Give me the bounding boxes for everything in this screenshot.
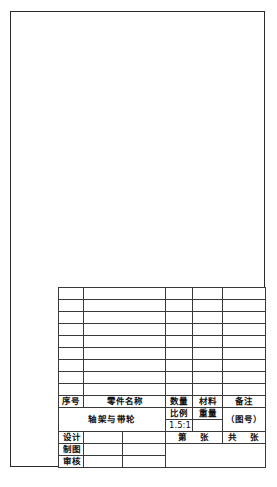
bom-cell-remarks[interactable] xyxy=(223,360,266,372)
title-block-body: 序号 零件名称 数量 材料 备注 轴架与带轮 比例 重量 （图号） 1.5:1 … xyxy=(59,288,266,468)
bom-row[interactable] xyxy=(59,336,266,348)
bom-cell-qty[interactable] xyxy=(166,360,193,372)
title-block-table: 序号 零件名称 数量 材料 备注 轴架与带轮 比例 重量 （图号） 1.5:1 … xyxy=(58,287,266,468)
bom-cell-seq[interactable] xyxy=(59,348,84,360)
bom-row[interactable] xyxy=(59,372,266,384)
bom-cell-seq[interactable] xyxy=(59,300,84,312)
header-seq-no: 序号 xyxy=(59,396,84,408)
header-material: 材料 xyxy=(193,396,223,408)
header-part-name: 零件名称 xyxy=(84,396,166,408)
bom-cell-remarks[interactable] xyxy=(223,288,266,300)
bom-cell-material[interactable] xyxy=(193,360,223,372)
bom-cell-seq[interactable] xyxy=(59,384,84,396)
drawing-sheet-frame: 序号 零件名称 数量 材料 备注 轴架与带轮 比例 重量 （图号） 1.5:1 … xyxy=(10,11,265,467)
bom-cell-name[interactable] xyxy=(84,348,166,360)
draft-date-field[interactable] xyxy=(123,444,166,456)
draft-row: 制图 xyxy=(59,444,266,456)
header-quantity: 数量 xyxy=(166,396,193,408)
bom-cell-material[interactable] xyxy=(193,372,223,384)
bom-cell-qty[interactable] xyxy=(166,288,193,300)
scale-label: 比例 xyxy=(166,408,193,420)
bom-cell-seq[interactable] xyxy=(59,372,84,384)
review-name-field[interactable] xyxy=(84,456,123,468)
sheet-current-cell: 第 张 xyxy=(166,432,223,444)
header-remarks: 备注 xyxy=(223,396,266,408)
bom-cell-qty[interactable] xyxy=(166,348,193,360)
bom-cell-remarks[interactable] xyxy=(223,324,266,336)
bom-cell-seq[interactable] xyxy=(59,360,84,372)
part-name-value: 轴架与带轮 xyxy=(59,408,166,432)
signoff-blank-area[interactable] xyxy=(166,444,266,468)
bom-cell-seq[interactable] xyxy=(59,312,84,324)
bom-cell-remarks[interactable] xyxy=(223,348,266,360)
bom-row[interactable] xyxy=(59,348,266,360)
bom-cell-qty[interactable] xyxy=(166,336,193,348)
draft-name-field[interactable] xyxy=(84,444,123,456)
design-label: 设计 xyxy=(59,432,84,444)
bom-cell-name[interactable] xyxy=(84,312,166,324)
sheet-total-cell: 共 张 xyxy=(223,432,266,444)
drawing-number-cell: （图号） xyxy=(223,408,266,432)
bom-cell-remarks[interactable] xyxy=(223,384,266,396)
bom-cell-qty[interactable] xyxy=(166,312,193,324)
bom-cell-remarks[interactable] xyxy=(223,312,266,324)
bom-cell-name[interactable] xyxy=(84,360,166,372)
bom-cell-seq[interactable] xyxy=(59,288,84,300)
bom-cell-remarks[interactable] xyxy=(223,372,266,384)
bom-cell-material[interactable] xyxy=(193,300,223,312)
bom-cell-material[interactable] xyxy=(193,336,223,348)
bom-cell-name[interactable] xyxy=(84,336,166,348)
review-label: 审核 xyxy=(59,456,84,468)
part-name-row: 轴架与带轮 比例 重量 （图号） xyxy=(59,408,266,420)
bom-cell-qty[interactable] xyxy=(166,300,193,312)
weight-label: 重量 xyxy=(193,408,223,420)
weight-value[interactable] xyxy=(193,420,223,432)
bom-cell-material[interactable] xyxy=(193,288,223,300)
bom-cell-material[interactable] xyxy=(193,384,223,396)
bom-cell-name[interactable] xyxy=(84,288,166,300)
bom-cell-material[interactable] xyxy=(193,312,223,324)
bom-cell-qty[interactable] xyxy=(166,372,193,384)
bom-cell-seq[interactable] xyxy=(59,324,84,336)
bom-row[interactable] xyxy=(59,384,266,396)
bom-row[interactable] xyxy=(59,300,266,312)
design-name-field[interactable] xyxy=(84,432,123,444)
draft-label: 制图 xyxy=(59,444,84,456)
bom-cell-material[interactable] xyxy=(193,324,223,336)
review-date-field[interactable] xyxy=(123,456,166,468)
design-date-field[interactable] xyxy=(123,432,166,444)
bom-cell-seq[interactable] xyxy=(59,336,84,348)
bom-row[interactable] xyxy=(59,288,266,300)
bom-cell-name[interactable] xyxy=(84,384,166,396)
bom-cell-qty[interactable] xyxy=(166,324,193,336)
bom-row[interactable] xyxy=(59,324,266,336)
bom-cell-remarks[interactable] xyxy=(223,336,266,348)
bom-cell-name[interactable] xyxy=(84,372,166,384)
scale-value[interactable]: 1.5:1 xyxy=(166,420,193,432)
bom-header-row: 序号 零件名称 数量 材料 备注 xyxy=(59,396,266,408)
bom-row[interactable] xyxy=(59,312,266,324)
bom-cell-name[interactable] xyxy=(84,300,166,312)
bom-cell-qty[interactable] xyxy=(166,384,193,396)
design-row: 设计 第 张 共 张 xyxy=(59,432,266,444)
bom-cell-remarks[interactable] xyxy=(223,300,266,312)
bom-cell-material[interactable] xyxy=(193,348,223,360)
bom-cell-name[interactable] xyxy=(84,324,166,336)
bom-row[interactable] xyxy=(59,360,266,372)
